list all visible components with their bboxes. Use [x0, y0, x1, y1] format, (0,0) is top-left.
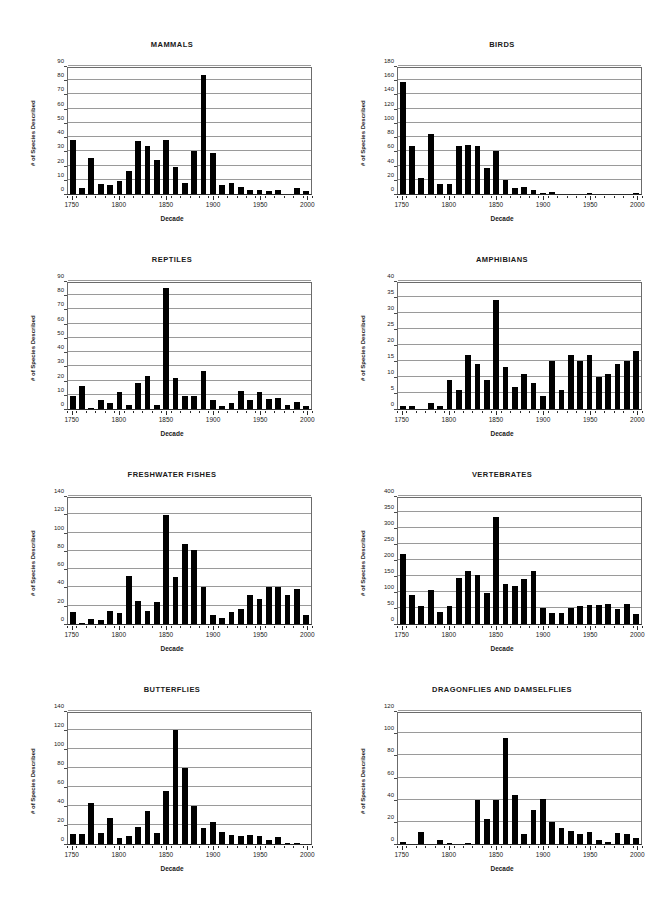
bar [247, 595, 253, 624]
x-tick-mark-minor [482, 196, 483, 198]
x-tick-mark-major [72, 196, 73, 200]
y-tick-mark [394, 560, 397, 561]
plot-area-reptiles [67, 282, 312, 410]
x-tick-mark-minor [105, 626, 106, 628]
plot-area-butterflies [67, 712, 312, 845]
bar-slot [510, 68, 519, 194]
x-tick-mark-minor [416, 846, 417, 848]
bar [163, 288, 169, 409]
bar [587, 355, 593, 409]
x-tick-mark-minor [76, 196, 77, 198]
bar-slot [87, 283, 96, 409]
x-tick-mark-minor [510, 846, 511, 848]
bar-slot [482, 713, 491, 844]
bar-slot [426, 68, 435, 194]
x-tick-mark-major [543, 626, 544, 630]
bar-series-amphibians [398, 283, 641, 409]
y-tick-label: 60 [352, 143, 397, 149]
bar [596, 840, 602, 844]
x-tick-mark-minor [595, 196, 596, 198]
x-tick-label: 2000 [300, 631, 314, 638]
bar-slot [473, 68, 482, 194]
bar-slot [426, 498, 435, 624]
bar-slot [171, 713, 180, 844]
bar [447, 606, 453, 624]
bar-slot [105, 283, 114, 409]
bar-slot [133, 283, 142, 409]
bar-slot [454, 713, 463, 844]
bar [117, 613, 123, 624]
bar-slot [548, 713, 557, 844]
bar-slot [264, 283, 273, 409]
y-tick-mark [64, 94, 67, 95]
x-tick-mark-minor [463, 846, 464, 848]
bar [154, 833, 160, 844]
bar [229, 403, 235, 409]
x-tick-mark-major [166, 846, 167, 850]
bar-slot [538, 713, 547, 844]
y-tick-mark [394, 180, 397, 181]
x-tick-mark-minor [274, 846, 275, 848]
x-tick-label: 1850 [159, 851, 173, 858]
y-tick-mark [64, 123, 67, 124]
bar-slot [189, 283, 198, 409]
x-tick-mark-major [637, 196, 638, 200]
bar [210, 615, 216, 624]
bar-slot [227, 283, 236, 409]
x-tick-mark-minor [614, 626, 615, 628]
x-tick-mark-major [260, 846, 261, 850]
y-tick-mark [64, 409, 67, 410]
bar-slot [482, 283, 491, 409]
bar [465, 355, 471, 409]
bar-slot [529, 283, 538, 409]
x-tick-mark-minor [86, 626, 87, 628]
x-tick-mark-minor [463, 196, 464, 198]
y-tick-mark [394, 329, 397, 330]
bar [210, 153, 216, 194]
y-tick-mark [394, 109, 397, 110]
bar [624, 604, 630, 624]
bar-slot [302, 283, 311, 409]
bar [624, 834, 630, 844]
x-tick-mark-major [213, 411, 214, 415]
y-axis-label-birds: # of Species Described [360, 100, 366, 166]
y-tick-label: 10 [352, 369, 397, 375]
x-tick-mark-minor [397, 196, 398, 198]
bar-slot [133, 713, 142, 844]
x-tick-mark-minor [633, 411, 634, 413]
bar-slot [548, 68, 557, 194]
x-tick-mark-minor [199, 626, 200, 628]
bar-slot [246, 68, 255, 194]
x-tick-mark-minor [274, 196, 275, 198]
bar-slot [227, 498, 236, 624]
bar-slot [236, 498, 245, 624]
bar [465, 145, 471, 194]
bar [633, 351, 639, 409]
y-axis-reptiles: 0102030405060708090 [22, 282, 67, 410]
x-tick-mark-major [307, 846, 308, 850]
y-tick-label: 120 [352, 703, 397, 709]
bar [484, 593, 490, 624]
x-tick-mark-minor [548, 196, 549, 198]
bar-slot [264, 498, 273, 624]
bar [559, 390, 565, 409]
x-tick-mark-minor [76, 626, 77, 628]
x-tick-mark-minor [614, 196, 615, 198]
bar-slot [302, 68, 311, 194]
bar [88, 408, 94, 409]
bar [475, 575, 481, 624]
x-tick-mark-minor [114, 626, 115, 628]
bar-slot [274, 498, 283, 624]
x-tick-label: 1750 [64, 416, 78, 423]
bar [400, 554, 406, 624]
bar-slot [463, 713, 472, 844]
x-tick-label: 2000 [300, 201, 314, 208]
bar [568, 831, 574, 844]
x-tick-mark-minor [614, 846, 615, 848]
bar-series-birds [398, 68, 641, 194]
y-tick-label: 5 [352, 385, 397, 391]
chart-title-reptiles: REPTILES [22, 255, 322, 264]
y-tick-mark [394, 94, 397, 95]
x-tick-mark-major [307, 196, 308, 200]
x-tick-mark-minor [293, 626, 294, 628]
